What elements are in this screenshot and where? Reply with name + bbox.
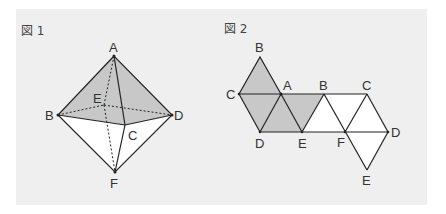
shaded-top-faces (58, 56, 172, 125)
vertex-label-e: E (93, 91, 102, 106)
net-label-a: A (283, 78, 292, 93)
net-label-c1: C (226, 87, 235, 102)
figure-2: 図 2 B C (224, 22, 400, 188)
vertex-label-a: A (109, 40, 118, 55)
vertex-label-f: F (110, 176, 118, 191)
vertex-label-c: C (128, 128, 137, 143)
net-label-d1: D (255, 136, 264, 151)
figure-1: 図 1 A B C D E F (21, 24, 183, 191)
net-label-e1: E (298, 136, 307, 151)
net-label-f: F (337, 135, 345, 150)
net-label-b2: B (319, 78, 328, 93)
net-label-d2: D (391, 125, 400, 140)
net-label-b1: B (255, 40, 264, 55)
vertex-label-d: D (174, 108, 183, 123)
figure-2-title: 図 2 (224, 22, 247, 36)
vertex-label-b: B (45, 108, 54, 123)
net-label-e2: E (362, 173, 371, 188)
net-label-c2: C (362, 78, 371, 93)
figures-canvas: 図 1 A B C D E F 図 2 (0, 0, 446, 214)
figure-1-title: 図 1 (21, 24, 44, 38)
